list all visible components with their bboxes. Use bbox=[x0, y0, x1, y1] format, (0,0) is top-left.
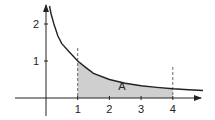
x-label-2: 2 bbox=[106, 103, 112, 115]
y-label-2: 2 bbox=[33, 18, 39, 30]
curve-1-over-x bbox=[50, 6, 204, 91]
area-label: A bbox=[118, 80, 126, 92]
y-label-1: 1 bbox=[33, 55, 39, 67]
x-label-1: 1 bbox=[75, 103, 81, 115]
x-label-3: 3 bbox=[138, 103, 144, 115]
chart: 1 2 3 4 1 2 A bbox=[0, 0, 215, 120]
x-label-4: 4 bbox=[170, 103, 176, 115]
